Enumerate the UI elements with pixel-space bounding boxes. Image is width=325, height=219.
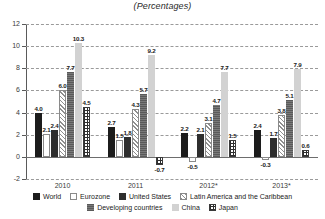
- bar-japan-2013: [302, 150, 309, 157]
- bar-value-label: 0.6: [297, 142, 314, 149]
- bar-united-states-2012: [197, 134, 204, 157]
- bar-value-label: 2.4: [249, 122, 266, 129]
- y-axis-label: 2: [0, 131, 20, 138]
- legend-swatch-icon: [70, 193, 77, 200]
- bar-latin-america-and-the-caribbean-2012: [205, 123, 212, 157]
- legend-swatch-icon: [33, 193, 40, 200]
- x-axis-label-2010: 2010: [26, 182, 99, 189]
- bar-united-states-2013: [270, 138, 277, 157]
- gridline: [26, 179, 318, 180]
- gridline: [26, 24, 318, 25]
- legend-item-latin-america-and-the-caribbean[interactable]: Latin America and the Caribbean: [180, 191, 292, 202]
- bar-value-label: 7.7: [216, 64, 233, 71]
- bar-latin-america-and-the-caribbean-2010: [59, 90, 66, 156]
- bar-value-label: 4.5: [78, 99, 95, 106]
- y-axis-label: -2: [0, 175, 20, 182]
- legend-item-developing-countries[interactable]: Developing countries: [87, 202, 162, 213]
- legend-item-united-states[interactable]: United States: [119, 191, 171, 202]
- bar-united-states-2011: [124, 137, 131, 157]
- bar-world-2010: [35, 113, 42, 157]
- chart-legend: WorldEurozoneUnited StatesLatin America …: [0, 191, 325, 213]
- legend-label: World: [43, 191, 61, 202]
- legend-swatch-icon: [172, 204, 179, 211]
- bar-japan-2010: [83, 107, 90, 157]
- bar-world-2013: [254, 130, 261, 157]
- plot-area: 4.02.12.46.07.710.34.52.71.51.84.35.79.2…: [26, 24, 318, 179]
- bar-eurozone-2012: [189, 157, 196, 163]
- legend-label: China: [182, 202, 200, 213]
- x-axis-label-2012: 2012*: [172, 182, 245, 189]
- bar-united-states-2010: [51, 130, 58, 157]
- bar-latin-america-and-the-caribbean-2011: [132, 109, 139, 157]
- bar-value-label: -0.7: [151, 166, 168, 173]
- bar-developing-countries-2011: [140, 94, 147, 157]
- gridline: [26, 46, 318, 47]
- bar-eurozone-2013: [262, 157, 269, 160]
- bar-eurozone-2010: [43, 134, 50, 157]
- bar-value-label: 2.2: [176, 125, 193, 132]
- y-axis-label: 10: [0, 42, 20, 49]
- bar-chart-figure: (Percentages) -2024681012 4.02.12.46.07.…: [0, 0, 325, 219]
- legend-label: United States: [129, 191, 171, 202]
- bar-china-2012: [221, 72, 228, 157]
- y-axis-label: 8: [0, 64, 20, 71]
- bar-value-label: 4.0: [30, 105, 47, 112]
- bar-developing-countries-2013: [286, 100, 293, 156]
- bar-eurozone-2011: [116, 140, 123, 157]
- bar-developing-countries-2010: [67, 72, 74, 157]
- bar-china-2011: [148, 55, 155, 157]
- bar-value-label: 10.3: [70, 35, 87, 42]
- legend-item-world[interactable]: World: [33, 191, 61, 202]
- bar-japan-2012: [229, 140, 236, 157]
- legend-label: Japan: [219, 202, 238, 213]
- legend-label: Developing countries: [97, 202, 162, 213]
- bar-value-label: -0.5: [184, 163, 201, 170]
- chart-title: (Percentages): [0, 1, 325, 11]
- bar-value-label: 9.2: [143, 47, 160, 54]
- bar-developing-countries-2012: [213, 105, 220, 157]
- bar-value-label: 1.5: [224, 132, 241, 139]
- legend-item-eurozone[interactable]: Eurozone: [70, 191, 110, 202]
- legend-swatch-icon: [209, 204, 216, 211]
- legend-label: Eurozone: [80, 191, 110, 202]
- legend-swatch-icon: [180, 193, 187, 200]
- bar-value-label: 7.9: [289, 61, 306, 68]
- x-axis-label-2013: 2013*: [245, 182, 318, 189]
- legend-swatch-icon: [87, 204, 94, 211]
- y-axis-label: 6: [0, 86, 20, 93]
- x-axis-label-2011: 2011: [99, 182, 172, 189]
- bar-japan-2011: [156, 157, 163, 165]
- bar-world-2012: [181, 133, 188, 157]
- y-axis-label: 4: [0, 109, 20, 116]
- y-axis-label: 0: [0, 153, 20, 160]
- legend-row-1: WorldEurozoneUnited StatesLatin America …: [0, 191, 325, 202]
- bar-value-label: 2.7: [103, 119, 120, 126]
- legend-label: Latin America and the Caribbean: [190, 191, 292, 202]
- legend-item-china[interactable]: China: [172, 202, 200, 213]
- zero-axis-line: [26, 157, 318, 158]
- legend-swatch-icon: [119, 193, 126, 200]
- y-axis-label: 12: [0, 20, 20, 27]
- bar-latin-america-and-the-caribbean-2013: [278, 115, 285, 157]
- bar-value-label: -0.3: [257, 161, 274, 168]
- legend-row-2: Developing countriesChinaJapan: [0, 202, 325, 213]
- legend-item-japan[interactable]: Japan: [209, 202, 238, 213]
